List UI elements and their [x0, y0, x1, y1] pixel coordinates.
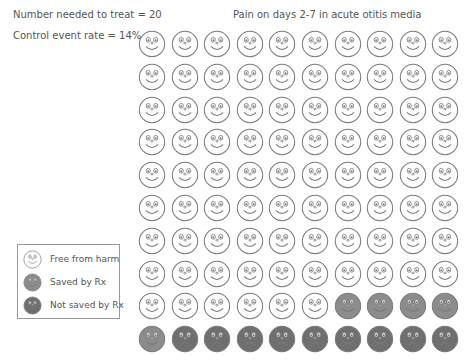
smiley-face-icon: [268, 63, 296, 91]
smiley-face-icon: [301, 30, 329, 58]
smiley-face-icon: [334, 63, 362, 91]
smiley-face-icon: [236, 292, 264, 320]
frowny-face-icon: [268, 325, 296, 353]
smiley-face-icon: [431, 292, 459, 320]
icon-array-grid: [138, 30, 468, 360]
smiley-face-icon: [236, 227, 264, 255]
smiley-face-icon: [301, 194, 329, 222]
smiley-face-icon: [268, 96, 296, 124]
smiley-face-icon: [138, 260, 166, 288]
nnt-label: Number needed to treat = 20: [13, 9, 162, 20]
smiley-face-icon: [236, 161, 264, 189]
legend: Free from harm Saved by Rx Not saved by …: [17, 244, 120, 319]
smiley-face-icon: [138, 30, 166, 58]
smiley-face-icon: [399, 292, 427, 320]
smiley-face-icon: [171, 194, 199, 222]
smiley-face-icon: [236, 63, 264, 91]
smiley-face-icon: [268, 128, 296, 156]
smiley-face-icon: [399, 30, 427, 58]
smiley-face-icon: [203, 292, 231, 320]
smiley-face-icon: [334, 227, 362, 255]
smiley-face-icon: [399, 63, 427, 91]
legend-label: Not saved by Rx: [50, 300, 124, 310]
smiley-face-icon: [366, 63, 394, 91]
smiley-face-icon: [366, 194, 394, 222]
smiley-face-icon: [171, 96, 199, 124]
smiley-face-icon: [171, 292, 199, 320]
smiley-face-icon: [236, 30, 264, 58]
legend-item-free: Free from harm: [23, 249, 119, 269]
smiley-face-icon: [203, 194, 231, 222]
legend-item-saved: Saved by Rx: [23, 272, 106, 292]
smiley-face-icon: [366, 128, 394, 156]
smiley-face-icon: [268, 30, 296, 58]
smiley-face-icon: [203, 96, 231, 124]
smiley-face-icon: [138, 161, 166, 189]
smiley-face-icon: [431, 194, 459, 222]
smiley-face-icon: [203, 161, 231, 189]
smiley-face-icon: [138, 325, 166, 353]
smiley-face-icon: [171, 227, 199, 255]
smiley-face-icon: [334, 96, 362, 124]
smiley-face-icon: [138, 96, 166, 124]
smiley-face-icon: [268, 227, 296, 255]
smiley-face-icon: [301, 128, 329, 156]
smiley-face-icon: [366, 30, 394, 58]
smiley-face-icon: [399, 128, 427, 156]
smiley-face-icon: [268, 260, 296, 288]
smiley-face-icon: [366, 96, 394, 124]
smiley-face-icon: [431, 227, 459, 255]
smiley-face-icon: [203, 30, 231, 58]
smiley-face-icon: [171, 128, 199, 156]
smiley-face-icon: [236, 96, 264, 124]
smiley-face-icon: [334, 194, 362, 222]
smiley-face-icon: [138, 292, 166, 320]
frowny-face-icon: [366, 325, 394, 353]
smiley-face-icon: [301, 260, 329, 288]
smiley-face-icon: [399, 96, 427, 124]
smiley-face-icon: [268, 292, 296, 320]
smiley-face-icon: [301, 96, 329, 124]
smiley-face-icon: [334, 260, 362, 288]
frowny-face-icon: [236, 325, 264, 353]
legend-item-not-saved: Not saved by Rx: [23, 295, 124, 315]
smiley-face-icon: [138, 227, 166, 255]
frowny-face-icon: [23, 296, 42, 315]
smiley-face-icon: [431, 161, 459, 189]
smiley-face-icon: [23, 273, 42, 292]
smiley-face-icon: [203, 260, 231, 288]
smiley-face-icon: [431, 128, 459, 156]
smiley-face-icon: [399, 260, 427, 288]
smiley-face-icon: [334, 161, 362, 189]
legend-label: Free from harm: [50, 254, 119, 264]
smiley-face-icon: [366, 260, 394, 288]
frowny-face-icon: [431, 325, 459, 353]
smiley-face-icon: [334, 292, 362, 320]
smiley-face-icon: [203, 63, 231, 91]
smiley-face-icon: [301, 292, 329, 320]
control-event-rate-label: Control event rate = 14%: [13, 30, 141, 41]
smiley-face-icon: [399, 161, 427, 189]
smiley-face-icon: [431, 96, 459, 124]
legend-label: Saved by Rx: [50, 277, 106, 287]
frowny-face-icon: [334, 325, 362, 353]
smiley-face-icon: [268, 161, 296, 189]
smiley-face-icon: [268, 194, 296, 222]
smiley-face-icon: [399, 194, 427, 222]
frowny-face-icon: [301, 325, 329, 353]
smiley-face-icon: [301, 161, 329, 189]
frowny-face-icon: [171, 325, 199, 353]
smiley-face-icon: [399, 227, 427, 255]
smiley-face-icon: [171, 260, 199, 288]
smiley-face-icon: [431, 63, 459, 91]
smiley-face-icon: [366, 227, 394, 255]
smiley-face-icon: [236, 128, 264, 156]
frowny-face-icon: [203, 325, 231, 353]
smiley-face-icon: [138, 63, 166, 91]
smiley-face-icon: [366, 161, 394, 189]
smiley-face-icon: [171, 63, 199, 91]
smiley-face-icon: [23, 250, 42, 269]
smiley-face-icon: [431, 30, 459, 58]
smiley-face-icon: [334, 128, 362, 156]
smiley-face-icon: [203, 227, 231, 255]
